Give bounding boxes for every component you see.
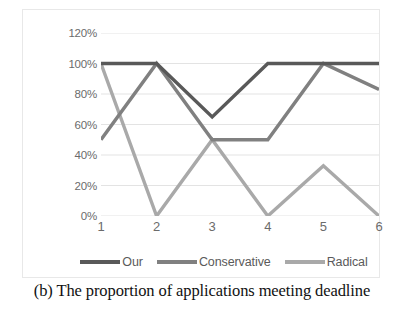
- y-axis-tick-label: 20%: [75, 180, 97, 192]
- legend-item-our[interactable]: Our: [80, 255, 143, 269]
- legend-swatch-icon: [80, 260, 120, 264]
- x-axis-tick-label: 1: [97, 219, 104, 234]
- x-axis-tick-label: 3: [209, 219, 216, 234]
- legend-label: Radical: [327, 255, 368, 269]
- legend-label: Conservative: [199, 255, 271, 269]
- legend-label: Our: [122, 255, 143, 269]
- chart-frame: 0%20%40%60%80%100%120% 123456 OurConserv…: [22, 9, 380, 278]
- legend-item-conservative[interactable]: Conservative: [157, 255, 271, 269]
- figure-page: 0%20%40%60%80%100%120% 123456 OurConserv…: [0, 0, 404, 309]
- figure-caption: (b) The proportion of applications meeti…: [0, 281, 404, 301]
- legend-swatch-icon: [157, 260, 197, 264]
- x-axis-tick-label: 4: [264, 219, 271, 234]
- y-axis-tick-label: 0%: [81, 210, 97, 222]
- x-axis: 123456: [101, 219, 379, 241]
- y-axis-tick-label: 120%: [68, 27, 97, 39]
- x-axis-tick-label: 2: [153, 219, 160, 234]
- series-line-conservative: [101, 64, 379, 140]
- y-axis-tick-label: 80%: [75, 88, 97, 100]
- chart-legend: OurConservativeRadical: [45, 255, 403, 269]
- x-axis-tick-label: 6: [375, 219, 382, 234]
- y-axis: 0%20%40%60%80%100%120%: [47, 33, 97, 216]
- y-axis-tick-label: 40%: [75, 149, 97, 161]
- line-chart-svg: [101, 33, 379, 216]
- legend-swatch-icon: [285, 260, 325, 264]
- plot-area: [101, 33, 379, 216]
- legend-item-radical[interactable]: Radical: [285, 255, 368, 269]
- y-axis-tick-label: 100%: [68, 58, 97, 70]
- y-axis-tick-label: 60%: [75, 119, 97, 131]
- x-axis-tick-label: 5: [320, 219, 327, 234]
